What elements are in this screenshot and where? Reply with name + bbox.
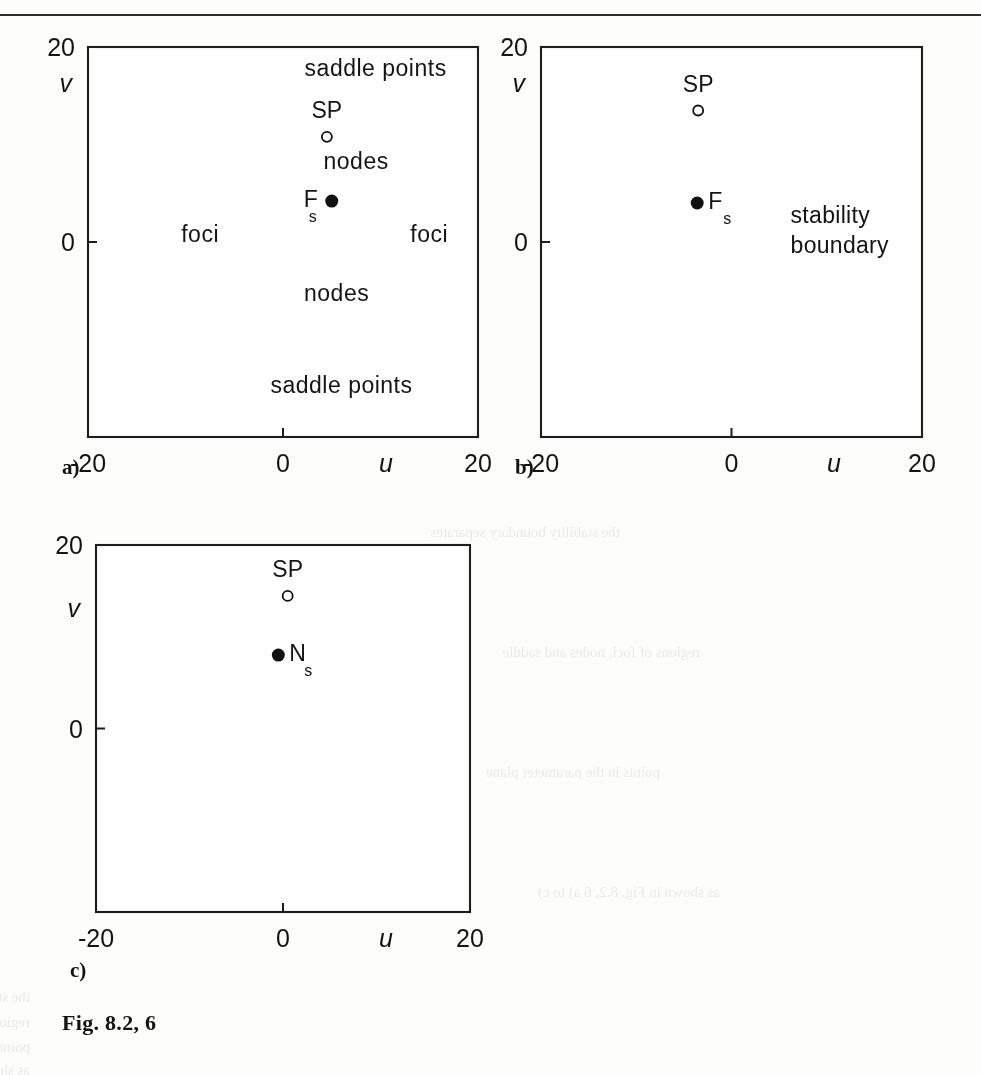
x-tick-label: 20 xyxy=(456,924,484,952)
x-tick-label: -20 xyxy=(78,924,114,952)
marker-dot-Ns xyxy=(272,649,285,662)
region-label-foci-left: foci xyxy=(181,221,219,247)
marker-dot-Fs xyxy=(691,197,704,210)
x-tick-label: 20 xyxy=(908,449,936,477)
marker-sub-Fs: s xyxy=(309,208,317,225)
annotation-stability-boundary-line2: boundary xyxy=(791,232,890,258)
y-tick-label: 0 xyxy=(61,228,75,256)
panel-c-letter: c) xyxy=(70,958,86,983)
panel-a: 020-20020vusaddle pointssaddle pointssad… xyxy=(88,47,480,487)
marker-sub-Fs: s xyxy=(723,210,731,227)
y-axis-label: v xyxy=(513,69,527,97)
x-axis-label: u xyxy=(827,449,841,477)
region-label-nodes-lower: nodes xyxy=(304,280,369,306)
plot-frame xyxy=(96,545,470,912)
panel-b: 020-20020vuSPSPFFssstabilityboundary xyxy=(541,47,922,487)
annotation-stability-boundary-line1: stability xyxy=(791,202,871,228)
region-label-nodes-upper: nodes xyxy=(324,148,389,174)
marker-label-Fs: F xyxy=(708,188,722,214)
marker-open-circle-SP xyxy=(322,132,332,142)
y-tick-label: 0 xyxy=(69,715,83,743)
region-label-foci-right: foci xyxy=(410,221,448,247)
panel-b-plot: 020-20020vuSPSPFFssstabilityboundary xyxy=(541,47,922,487)
panel-c: 020-20020vuSPSPNNss xyxy=(96,545,470,985)
region-label-saddle-points-upper: saddle points xyxy=(305,55,447,81)
marker-label-SP: SP xyxy=(272,556,303,582)
figure-caption: Fig. 8.2, 6 xyxy=(62,1010,156,1036)
y-axis-label: v xyxy=(68,594,82,622)
marker-open-circle-SP xyxy=(693,106,703,116)
y-axis-label: v xyxy=(60,69,74,97)
marker-label-SP: SP xyxy=(683,71,714,97)
y-tick-label: 20 xyxy=(500,33,528,61)
x-tick-label: 20 xyxy=(464,449,492,477)
x-tick-label: 0 xyxy=(276,449,290,477)
marker-open-circle-SP xyxy=(283,591,293,601)
panel-a-letter: a) xyxy=(62,455,80,480)
x-axis-label: u xyxy=(379,449,393,477)
panel-c-plot: 020-20020vuSPSPNNss xyxy=(96,545,470,985)
x-axis-label: u xyxy=(379,924,393,952)
marker-sub-Ns: s xyxy=(304,662,312,679)
region-label-saddle-points-lower: saddle points xyxy=(270,372,412,398)
y-tick-label: 20 xyxy=(47,33,75,61)
figure-8-2-6: 020-20020vusaddle pointssaddle pointssad… xyxy=(0,0,981,1075)
x-tick-label: 0 xyxy=(276,924,290,952)
x-tick-label: 0 xyxy=(725,449,739,477)
y-tick-label: 0 xyxy=(514,228,528,256)
marker-label-SP: SP xyxy=(312,97,343,123)
panel-a-plot: 020-20020vusaddle pointssaddle pointssad… xyxy=(88,47,480,487)
y-tick-label: 20 xyxy=(55,531,83,559)
panel-b-letter: b) xyxy=(515,455,534,480)
marker-dot-Fs xyxy=(325,195,338,208)
